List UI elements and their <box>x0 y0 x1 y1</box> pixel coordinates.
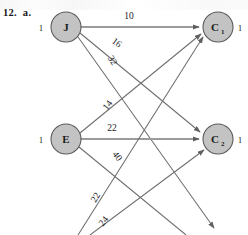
edge-cost-j-c1: 10 <box>124 11 134 21</box>
network-graph-svg: J 1 E 1 C 1 1 C 2 1 10 16 32 14 22 40 22… <box>0 0 248 235</box>
node-c2-demand: 1 <box>238 135 243 145</box>
edge-cost-b-c2: 24 <box>97 214 111 228</box>
edge-j-c2 <box>80 33 200 132</box>
node-j-label: J <box>63 21 69 33</box>
edge-b-c1 <box>78 37 203 235</box>
node-e-label: E <box>62 133 69 145</box>
edge-cost-e-c3: 40 <box>110 149 124 163</box>
node-c2-subscript: 2 <box>221 140 225 148</box>
edge-cost-e-c1: 14 <box>101 98 115 112</box>
edge-cost-b-c1: 22 <box>89 191 103 205</box>
node-c2-label: C <box>211 133 219 145</box>
node-c1-subscript: 1 <box>221 28 225 36</box>
node-e-supply: 1 <box>39 135 44 145</box>
node-c1-demand: 1 <box>238 23 243 33</box>
edge-e-c3 <box>79 147 186 235</box>
edge-cost-e-c2: 22 <box>107 123 117 133</box>
node-j-supply: 1 <box>39 23 44 33</box>
edge-cost-j-c2: 16 <box>110 36 124 50</box>
assignment-network-figure: 12. a. J 1 E 1 <box>0 0 248 235</box>
node-c1-label: C <box>211 21 219 33</box>
